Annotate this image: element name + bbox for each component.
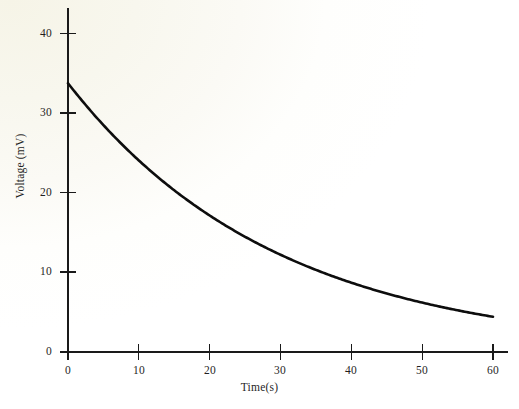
y-tick-label-0: 0 [20, 346, 52, 358]
voltage-decay-curve [68, 83, 493, 317]
chart-figure: 40 30 20 10 0 0 10 20 30 40 50 60 Time(s… [0, 0, 519, 409]
x-tick-label-30: 30 [265, 365, 295, 377]
y-axis-title: Voltage (mV) [14, 116, 26, 216]
y-tick-label-10: 10 [20, 266, 52, 278]
plot-area [0, 0, 519, 409]
x-tick-label-0: 0 [53, 365, 83, 377]
x-axis-title: Time(s) [0, 381, 519, 393]
x-tick-label-50: 50 [407, 365, 437, 377]
y-tick-label-40: 40 [20, 28, 52, 40]
x-tick-label-20: 20 [195, 365, 225, 377]
x-tick-label-40: 40 [336, 365, 366, 377]
x-tick-label-60: 60 [478, 365, 508, 377]
x-tick-label-10: 10 [124, 365, 154, 377]
